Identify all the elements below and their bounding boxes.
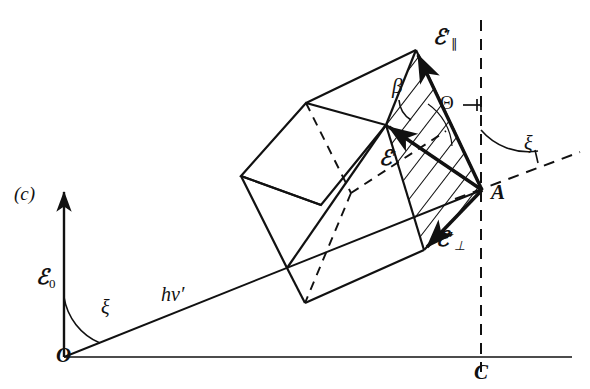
epsilon-zero-symbol: ℰ	[36, 265, 49, 289]
epsilon-perp-label: ℰ′⊥	[436, 229, 465, 252]
point-a-label: A	[491, 182, 505, 203]
xi-upper-label: ξ	[524, 133, 533, 153]
origin-label: O	[56, 345, 71, 366]
epsilon-perp-subscript: ⊥	[454, 238, 465, 253]
arc-xi-origin	[64, 297, 100, 343]
h-nu-prime-label: hν′	[161, 284, 184, 304]
epsilon-parallel-label: ℰ′∥	[433, 27, 458, 50]
epsilon-parallel-subscript: ∥	[451, 36, 458, 51]
arc-beta	[399, 100, 411, 120]
epsilon-prime-label: ℰ′	[379, 148, 397, 169]
theta-label: Θ	[440, 93, 454, 112]
figure-panel-c: (c) ℰ0 O ξ hν′ ℰ′∥ β Θ ξ ℰ′ A ℰ′⊥ C	[0, 0, 590, 389]
cube-visible-edges	[241, 50, 482, 303]
cube-hidden-edges	[305, 103, 446, 303]
epsilon-perp-symbol: ℰ	[436, 227, 449, 251]
epsilon-parallel-symbol: ℰ	[433, 25, 446, 49]
epsilon-prime-mark: ′	[392, 146, 397, 170]
point-c-label: C	[474, 362, 488, 383]
xi-lower-label: ξ	[101, 297, 110, 317]
beta-label: β	[392, 76, 402, 97]
epsilon-zero-subscript: 0	[49, 276, 56, 291]
epsilon-prime-symbol: ℰ	[379, 146, 392, 170]
epsilon-zero-label: ℰ0	[36, 267, 56, 290]
angle-arcs	[64, 98, 538, 343]
panel-label: (c)	[14, 184, 35, 203]
photon-ray-line	[64, 190, 482, 357]
